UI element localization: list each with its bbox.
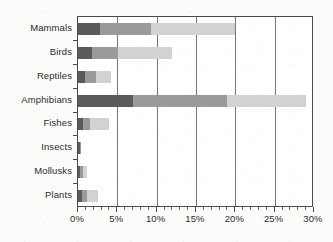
bar-segment-medium — [92, 47, 118, 59]
x-axis-labels: 0%5%10%15%20%25%30% — [0, 214, 333, 230]
x-axis-tick-minor — [85, 207, 86, 210]
x-axis-tick-major — [77, 207, 78, 212]
plot-area — [77, 16, 313, 207]
stacked-bar — [78, 118, 109, 130]
x-axis-tick-minor — [164, 207, 165, 210]
bar-segment-dark — [78, 71, 85, 83]
bar-row — [78, 65, 312, 89]
x-axis-tick-minor — [171, 207, 172, 210]
stacked-bar — [78, 190, 98, 202]
y-axis-label-reptiles: Reptiles — [2, 71, 72, 81]
bar-row — [78, 17, 312, 41]
x-axis-tick-minor — [211, 207, 212, 210]
bar-segment-light — [83, 166, 87, 178]
x-axis-tick-minor — [219, 207, 220, 210]
x-axis-tick-minor — [226, 207, 227, 210]
bar-segment-medium — [133, 95, 227, 107]
stacked-bar — [78, 142, 81, 154]
bar-segment-light — [151, 23, 235, 35]
x-axis-tick-major — [195, 207, 196, 212]
x-axis-tick-minor — [187, 207, 188, 210]
x-axis-tick-minor — [305, 207, 306, 210]
bar-row — [78, 184, 312, 208]
x-axis-tick-minor — [124, 207, 125, 210]
bar-segment-medium — [80, 142, 81, 154]
bar-segment-medium — [83, 118, 90, 130]
bar-segment-light — [96, 71, 111, 83]
x-axis-label-0: 0% — [55, 214, 99, 224]
x-axis-tick-major — [313, 207, 314, 212]
bar-segment-medium — [85, 71, 96, 83]
x-axis-label-20: 20% — [212, 214, 256, 224]
bar-row — [78, 136, 312, 160]
y-axis-label-insects: Insects — [2, 142, 72, 152]
bar-segment-light — [87, 190, 98, 202]
x-axis-label-15: 15% — [173, 214, 217, 224]
bar-segment-light — [118, 47, 172, 59]
y-axis-label-mollusks: Mollusks — [2, 166, 72, 176]
stacked-bar-chart: MammalsBirdsReptilesAmphibiansFishesInse… — [0, 0, 333, 242]
x-axis-tick-minor — [250, 207, 251, 210]
stacked-bar — [78, 47, 172, 59]
stacked-bar — [78, 166, 87, 178]
x-axis-tick-minor — [282, 207, 283, 210]
x-axis-tick-minor — [108, 207, 109, 210]
y-axis-label-fishes: Fishes — [2, 118, 72, 128]
bar-row — [78, 89, 312, 113]
x-axis-tick-minor — [148, 207, 149, 210]
bar-row — [78, 160, 312, 184]
bar-row — [78, 41, 312, 65]
y-axis-label-birds: Birds — [2, 47, 72, 57]
x-axis-tick-minor — [179, 207, 180, 210]
x-axis-tick-minor — [140, 207, 141, 210]
x-axis-tick-minor — [101, 207, 102, 210]
bar-row — [78, 113, 312, 137]
stacked-bar — [78, 95, 306, 107]
x-axis-tick-minor — [297, 207, 298, 210]
stacked-bar — [78, 23, 235, 35]
x-axis-tick-minor — [132, 207, 133, 210]
bar-segment-dark — [78, 95, 133, 107]
stacked-bar — [78, 71, 111, 83]
x-axis-label-10: 10% — [134, 214, 178, 224]
x-axis-tick-minor — [266, 207, 267, 210]
x-axis-tick-major — [234, 207, 235, 212]
x-axis-label-5: 5% — [94, 214, 138, 224]
bar-segment-light — [90, 118, 110, 130]
x-axis-tick-minor — [258, 207, 259, 210]
x-axis-tick-major — [116, 207, 117, 212]
bar-segment-dark — [78, 23, 100, 35]
bar-segment-medium — [100, 23, 151, 35]
x-axis-tick-minor — [93, 207, 94, 210]
x-axis-tick-major — [274, 207, 275, 212]
bar-segment-light — [227, 95, 306, 107]
y-axis-label-mammals: Mammals — [2, 23, 72, 33]
x-axis-label-30: 30% — [291, 214, 333, 224]
x-axis-tick-minor — [242, 207, 243, 210]
x-axis-tick-major — [156, 207, 157, 212]
x-axis-tick-minor — [289, 207, 290, 210]
y-axis-label-plants: Plants — [2, 190, 72, 200]
y-axis-label-amphibians: Amphibians — [2, 95, 72, 105]
x-axis-label-25: 25% — [252, 214, 296, 224]
x-axis-tick-minor — [203, 207, 204, 210]
bar-segment-dark — [78, 47, 92, 59]
